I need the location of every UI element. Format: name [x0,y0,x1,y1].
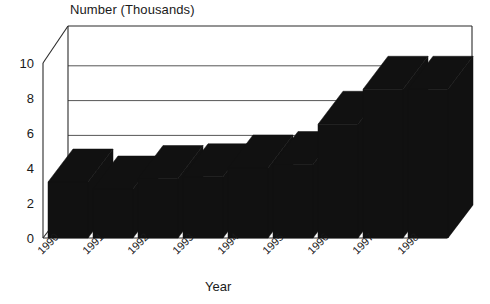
y-tick-0: 0 [8,231,34,246]
bar-front-1995 [273,165,313,239]
y-tick-8: 8 [8,91,34,106]
bar-front-1992 [138,179,178,239]
bar-chart: Number (Thousands) [0,0,490,304]
bar-front-1993 [183,177,223,238]
y-tick-4: 4 [8,161,34,176]
y-tick-2: 2 [8,196,34,211]
bar-front-1997 [363,89,403,238]
bar-group [48,56,473,238]
bar-front-1998 [408,89,448,238]
y-tick-10: 10 [8,56,34,71]
y-tick-6: 6 [8,126,34,141]
bar-front-1994 [228,168,268,238]
bar-front-1991 [93,189,133,238]
bar-front-1996 [318,124,358,238]
x-axis-title: Year [205,279,231,294]
chart-plot-area [0,0,490,304]
bar-front-1990 [48,182,88,238]
